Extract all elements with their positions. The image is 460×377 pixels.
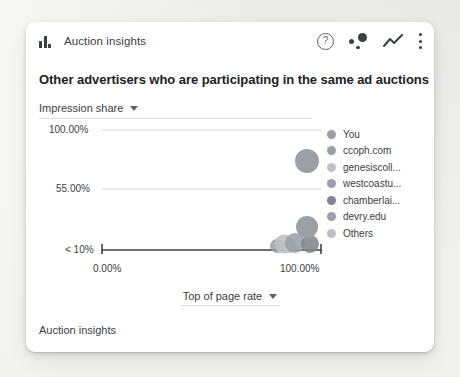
legend-label: Others: [343, 228, 373, 239]
legend-dot-icon: [327, 179, 336, 188]
legend-item[interactable]: westcoastu...: [327, 178, 401, 190]
auction-insights-card: Auction insights Other advertisers who a…: [26, 22, 434, 352]
dimension-select[interactable]: Top of page rate: [181, 290, 280, 306]
more-options-icon[interactable]: [418, 33, 422, 49]
chevron-down-icon: [130, 106, 138, 111]
y-axis-tick-55: 55.00%: [56, 183, 90, 194]
scatter-plot: 100.00% 55.00% < 10% 0.00% 100.00% You c…: [39, 123, 421, 288]
legend-label: devry.edu: [343, 211, 386, 222]
legend-label: westcoastu...: [343, 178, 401, 189]
dimension-select-wrap: Top of page rate: [39, 290, 421, 306]
card-footer: Auction insights: [26, 308, 434, 352]
legend-dot-icon: [327, 163, 336, 172]
x-axis-tick-min: 0.00%: [93, 263, 121, 274]
legend-item[interactable]: devry.edu: [327, 211, 401, 223]
chart-heading: Other advertisers who are participating …: [39, 72, 421, 87]
legend-item[interactable]: ccoph.com: [327, 145, 401, 157]
metric-select[interactable]: Impression share: [39, 102, 311, 119]
x-axis-tick-max: 100.00%: [280, 263, 319, 274]
bubble-you: [295, 149, 319, 173]
metric-select-label: Impression share: [39, 102, 123, 114]
bubble-ccoph: [296, 216, 318, 238]
dimension-select-label: Top of page rate: [183, 290, 263, 302]
auction-insights-link[interactable]: Auction insights: [39, 324, 116, 336]
help-icon[interactable]: [317, 33, 334, 50]
line-chart-icon[interactable]: [383, 34, 403, 48]
card-body: Other advertisers who are participating …: [26, 72, 434, 306]
legend-dot-icon: [327, 196, 336, 205]
legend-dot-icon: [327, 146, 336, 155]
legend-label: genesiscoll...: [343, 162, 401, 173]
legend-label: chamberlai...: [343, 195, 400, 206]
legend-item[interactable]: You: [327, 128, 401, 140]
legend-dot-icon: [327, 212, 336, 221]
y-axis-tick-100: 100.00%: [49, 124, 88, 135]
card-header: Auction insights: [26, 22, 434, 60]
card-title: Auction insights: [64, 35, 146, 47]
chart-legend: You ccoph.com genesiscoll... westcoastu.…: [327, 128, 401, 239]
legend-dot-icon: [327, 130, 336, 139]
bar-chart-icon: [39, 35, 53, 48]
y-axis-tick-min: < 10%: [65, 244, 94, 255]
bubble-chamberlai: [301, 235, 319, 253]
legend-item[interactable]: chamberlai...: [327, 194, 401, 206]
bubble-chart-icon[interactable]: [349, 33, 368, 49]
chevron-down-icon: [269, 294, 277, 299]
legend-item[interactable]: Others: [327, 227, 401, 239]
legend-item[interactable]: genesiscoll...: [327, 161, 401, 173]
legend-dot-icon: [327, 229, 336, 238]
header-actions: [317, 33, 422, 50]
legend-label: You: [343, 129, 360, 140]
legend-label: ccoph.com: [343, 145, 391, 156]
